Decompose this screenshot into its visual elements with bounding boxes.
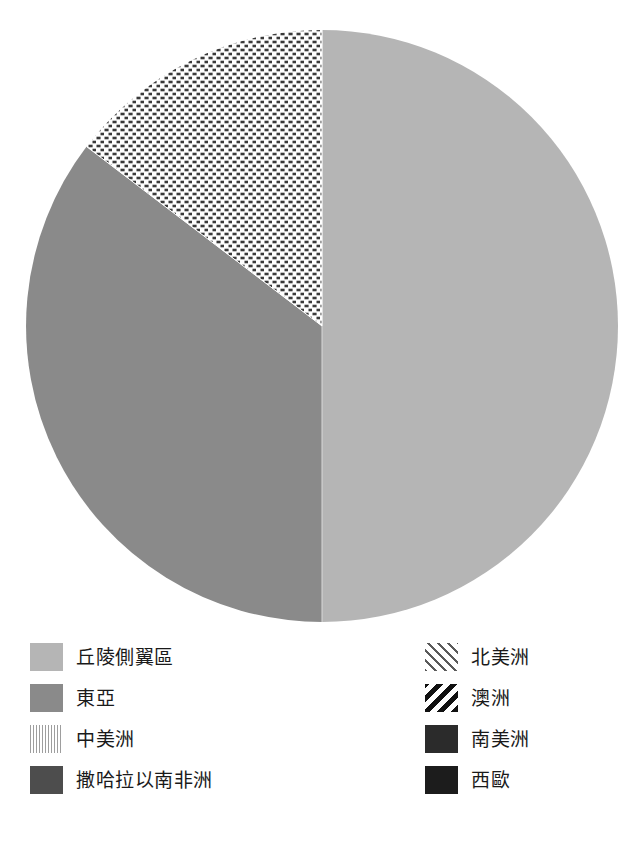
legend-item-hill-flank-zone[interactable]: 丘陵側翼區 xyxy=(30,636,290,677)
legend-item-sub-saharan-africa[interactable]: 撒哈拉以南非洲 xyxy=(30,759,290,800)
legend-item-east-asia[interactable]: 東亞 xyxy=(30,677,290,718)
legend-swatch-central-america xyxy=(30,725,63,753)
pie-chart-figure: 丘陵側翼區 東亞 中美洲 撒哈拉以南非洲 北美洲 xyxy=(0,0,628,841)
legend-label-east-asia: 東亞 xyxy=(76,688,115,708)
legend-item-western-europe[interactable]: 西歐 xyxy=(425,759,615,800)
legend-item-central-america[interactable]: 中美洲 xyxy=(30,718,290,759)
legend-item-australia[interactable]: 澳洲 xyxy=(425,677,615,718)
legend-swatch-western-europe xyxy=(425,766,458,794)
legend-label-hill-flank-zone: 丘陵側翼區 xyxy=(76,647,174,667)
legend-swatch-east-asia xyxy=(30,684,63,712)
legend-label-south-america: 南美洲 xyxy=(471,729,530,749)
legend-column-right: 北美洲 澳洲 南美洲 西歐 xyxy=(425,636,615,800)
legend-label-central-america: 中美洲 xyxy=(76,729,135,749)
legend-item-south-america[interactable]: 南美洲 xyxy=(425,718,615,759)
legend-label-north-america: 北美洲 xyxy=(471,647,530,667)
legend: 丘陵側翼區 東亞 中美洲 撒哈拉以南非洲 北美洲 xyxy=(0,636,628,816)
legend-label-western-europe: 西歐 xyxy=(471,770,510,790)
legend-swatch-sub-saharan-africa xyxy=(30,766,63,794)
legend-swatch-hill-flank-zone xyxy=(30,643,63,671)
legend-label-sub-saharan-africa: 撒哈拉以南非洲 xyxy=(76,770,213,790)
legend-label-australia: 澳洲 xyxy=(471,688,510,708)
legend-swatch-south-america xyxy=(425,725,458,753)
pie-chart-area xyxy=(0,0,628,640)
legend-item-north-america[interactable]: 北美洲 xyxy=(425,636,615,677)
pie-chart-svg xyxy=(0,0,628,640)
legend-column-left: 丘陵側翼區 東亞 中美洲 撒哈拉以南非洲 xyxy=(30,636,290,800)
pie-slice-hill-flank-zone[interactable] xyxy=(322,30,618,622)
legend-swatch-australia xyxy=(425,684,458,712)
legend-swatch-north-america xyxy=(425,643,458,671)
